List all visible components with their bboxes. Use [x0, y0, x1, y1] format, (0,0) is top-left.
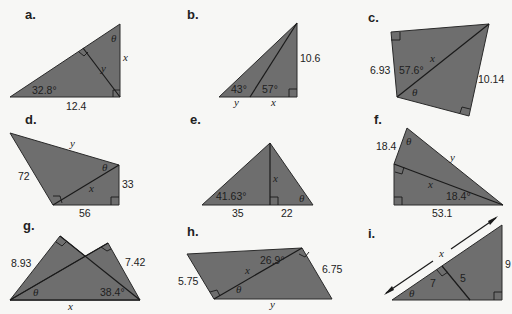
- svg-text:18.4: 18.4: [376, 140, 397, 152]
- figure-f: f. 18.4 18.4° 53.1 x y θ: [374, 112, 503, 219]
- svg-text:θ: θ: [412, 86, 418, 98]
- svg-text:10.6: 10.6: [300, 52, 321, 64]
- svg-text:26.9°: 26.9°: [260, 254, 285, 266]
- svg-text:x: x: [270, 96, 276, 108]
- svg-text:12.4: 12.4: [66, 100, 87, 112]
- svg-text:22: 22: [281, 207, 293, 219]
- svg-text:41.63°: 41.63°: [216, 190, 246, 202]
- label-i: i.: [368, 226, 375, 241]
- figure-i: i. x 7 5 9 θ: [368, 216, 511, 300]
- svg-text:x: x: [88, 182, 94, 194]
- svg-text:10.14: 10.14: [478, 73, 504, 85]
- svg-text:y: y: [449, 151, 455, 163]
- svg-text:x: x: [427, 178, 433, 190]
- svg-text:57.6°: 57.6°: [399, 64, 424, 76]
- label-h: h.: [187, 224, 199, 239]
- svg-text:y: y: [69, 137, 75, 149]
- svg-text:y: y: [100, 62, 106, 74]
- label-b: b.: [187, 7, 199, 22]
- figure-d: d. 72 33 56 x y θ: [10, 112, 134, 219]
- svg-text:θ: θ: [102, 161, 108, 173]
- svg-text:y: y: [269, 298, 275, 310]
- svg-text:5: 5: [460, 272, 466, 284]
- svg-text:33: 33: [122, 178, 134, 190]
- svg-text:x: x: [438, 247, 444, 259]
- svg-text:35: 35: [232, 207, 244, 219]
- svg-text:5.75: 5.75: [178, 275, 199, 287]
- label-e: e.: [190, 112, 201, 127]
- svg-text:y: y: [233, 96, 239, 108]
- label-c: c.: [368, 10, 379, 25]
- label-f: f.: [374, 112, 382, 127]
- exercise-figure-sheet: a. 32.8° 12.4 x y θ b. 43° 57° 10.6 x y …: [0, 0, 512, 314]
- svg-text:32.8°: 32.8°: [32, 84, 57, 96]
- svg-text:72: 72: [18, 170, 30, 182]
- svg-text:43°: 43°: [231, 83, 247, 95]
- svg-text:7: 7: [430, 277, 436, 289]
- svg-text:53.1: 53.1: [432, 207, 453, 219]
- svg-text:x: x: [272, 172, 278, 184]
- svg-text:7.42: 7.42: [125, 256, 146, 268]
- svg-text:x: x: [244, 264, 250, 276]
- figure-b: b. 43° 57° 10.6 x y: [187, 7, 321, 108]
- label-a: a.: [25, 7, 36, 22]
- figure-g: g. 8.93 7.42 38.4° x θ: [10, 218, 146, 312]
- svg-text:x: x: [122, 51, 128, 63]
- svg-text:x: x: [67, 300, 73, 312]
- svg-text:6.93: 6.93: [370, 64, 391, 76]
- svg-text:θ: θ: [33, 286, 39, 298]
- figure-c: c. 6.93 57.6° 10.14 x θ: [368, 10, 504, 116]
- svg-text:θ: θ: [111, 32, 117, 44]
- svg-text:θ: θ: [299, 192, 305, 204]
- svg-text:9: 9: [505, 258, 511, 270]
- svg-text:57°: 57°: [262, 83, 278, 95]
- figure-e: e. 41.63° 35 22 x θ: [190, 112, 313, 219]
- label-d: d.: [25, 112, 37, 127]
- svg-text:38.4°: 38.4°: [100, 286, 125, 298]
- svg-text:18.4°: 18.4°: [446, 190, 471, 202]
- svg-text:8.93: 8.93: [11, 257, 32, 269]
- svg-text:θ: θ: [409, 287, 415, 299]
- figure-a: a. 32.8° 12.4 x y θ: [10, 7, 128, 112]
- svg-text:θ: θ: [406, 135, 412, 147]
- figure-h: h. 26.9° 5.75 6.75 x y θ: [178, 224, 343, 310]
- svg-text:6.75: 6.75: [322, 263, 343, 275]
- label-g: g.: [23, 218, 35, 233]
- svg-text:θ: θ: [236, 283, 242, 295]
- svg-text:x: x: [429, 52, 435, 64]
- svg-text:56: 56: [79, 207, 91, 219]
